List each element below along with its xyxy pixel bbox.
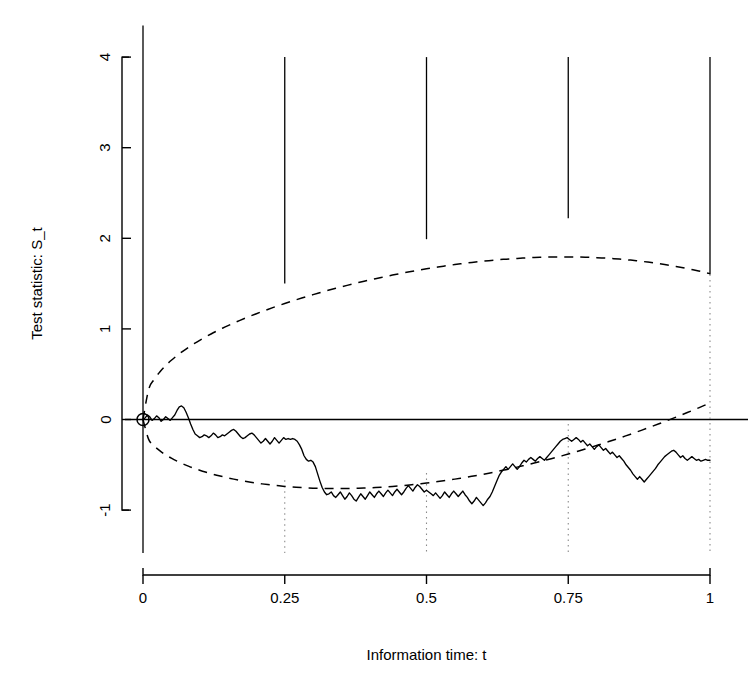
y-tick-label: 1 [97,325,114,333]
x-axis-tick-marks [143,575,710,584]
y-tick-label: 2 [97,234,114,242]
y-axis-tick-labels: -101234 [97,53,114,517]
chart-figure: -101234 00.250.50.751 Information time: … [0,0,748,691]
x-axis: 00.250.50.751 [139,568,714,606]
y-axis: -101234 [97,53,132,517]
x-tick-label: 0.25 [270,589,299,606]
interim-dotted-guides [285,275,710,553]
x-tick-label: 0.75 [554,589,583,606]
interim-boundary-lines [285,57,710,284]
x-tick-label: 0 [139,589,147,606]
y-axis-tick-marks [122,57,131,510]
y-tick-label: -1 [97,503,114,516]
x-tick-label: 0.5 [416,589,437,606]
y-tick-label: 0 [97,415,114,423]
x-axis-tick-labels: 00.250.50.751 [139,589,714,606]
x-tick-label: 1 [706,589,714,606]
y-tick-label: 3 [97,144,114,152]
lower-stopping-boundary [143,403,710,489]
y-axis-spine [122,57,129,510]
x-axis-spine [143,568,710,575]
upper-stopping-boundary [143,257,710,420]
x-axis-title: Information time: t [366,646,487,663]
y-axis-title: Test statistic: S_t [28,227,45,340]
test-statistic-path [143,406,710,506]
plot-canvas: -101234 00.250.50.751 Information time: … [0,0,748,691]
y-tick-label: 4 [97,53,114,61]
